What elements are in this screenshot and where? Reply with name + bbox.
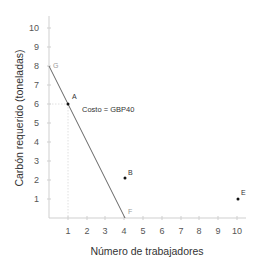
svg-text:7: 7 [34,80,39,90]
x-axis-title: Número de trabajadores [90,245,203,257]
svg-text:9: 9 [215,226,220,236]
x-tick-labels: 1 2 3 4 5 6 7 8 9 10 [65,226,242,236]
label-b: B [128,169,133,176]
y-tick-labels: 1 2 3 4 5 6 7 8 9 10 [29,23,39,204]
point-a [67,103,70,106]
svg-text:1: 1 [65,226,70,236]
label-e: E [241,189,246,196]
svg-text:1: 1 [34,194,39,204]
label-g: G [53,62,58,69]
svg-text:6: 6 [159,226,164,236]
point-e [237,198,240,201]
svg-text:6: 6 [34,99,39,109]
svg-text:10: 10 [232,226,242,236]
svg-text:3: 3 [34,156,39,166]
svg-text:4: 4 [121,226,126,236]
svg-text:8: 8 [34,61,39,71]
svg-text:5: 5 [140,226,145,236]
svg-text:2: 2 [84,226,89,236]
svg-text:2: 2 [34,175,39,185]
svg-text:7: 7 [178,226,183,236]
svg-text:3: 3 [102,226,107,236]
svg-text:4: 4 [34,137,39,147]
label-a: A [72,93,77,100]
y-axis-title: Carbón requerido (toneladas) [13,49,25,186]
cost-annotation: Costo = GBP40 [82,105,134,114]
svg-text:8: 8 [196,226,201,236]
svg-text:10: 10 [29,23,39,33]
isocost-line [49,66,125,218]
svg-text:9: 9 [34,42,39,52]
svg-text:5: 5 [34,118,39,128]
point-b [124,177,127,180]
label-f: F [128,208,132,215]
chart: 1 2 3 4 5 6 7 8 9 10 1 2 3 4 5 6 7 8 9 1… [0,0,259,268]
